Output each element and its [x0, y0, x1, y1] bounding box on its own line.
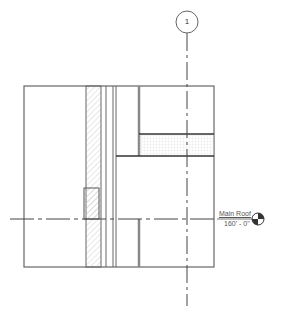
- section-view-canvas[interactable]: [0, 0, 288, 321]
- wall-outline[interactable]: [24, 86, 214, 267]
- grid-label: 1: [176, 17, 198, 26]
- opening-box[interactable]: [84, 188, 99, 219]
- level-name[interactable]: Main Roof: [219, 210, 251, 218]
- level-elevation[interactable]: 160' - 0": [224, 220, 250, 228]
- slab-hatch[interactable]: [139, 134, 214, 156]
- level-target-icon[interactable]: [252, 213, 264, 225]
- hatched-column[interactable]: [86, 86, 101, 267]
